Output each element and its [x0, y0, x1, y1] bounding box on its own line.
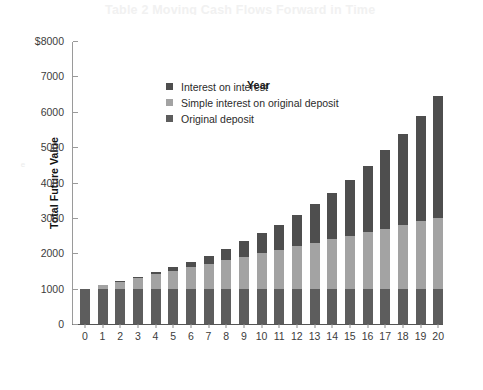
x-tick-label: 8	[223, 330, 229, 342]
legend-label: Original deposit	[181, 113, 254, 125]
bar-segment-original-deposit	[168, 289, 178, 324]
x-tick-mark	[438, 324, 439, 328]
bar-segment-original-deposit	[274, 289, 284, 324]
stacked-bar[interactable]	[257, 233, 267, 324]
x-tick-mark	[296, 324, 297, 328]
legend-item[interactable]: Simple interest on original deposit	[165, 95, 339, 110]
y-tick-mark	[73, 41, 78, 42]
bar-segment-simple-interest	[327, 239, 337, 289]
bar-segment-simple-interest	[380, 229, 390, 289]
x-tick-label: 6	[188, 330, 194, 342]
bar-segment-original-deposit	[380, 289, 390, 324]
y-tick-mark	[73, 253, 78, 254]
bar-segment-original-deposit	[204, 289, 214, 324]
stacked-bar[interactable]	[416, 116, 426, 324]
bar-segment-simple-interest	[398, 225, 408, 289]
bar-segment-interest-on-interest	[327, 193, 337, 240]
stacked-bar[interactable]	[363, 166, 373, 324]
x-tick-mark	[385, 324, 386, 328]
stacked-bar[interactable]	[204, 256, 214, 324]
x-tick-label: 15	[344, 330, 356, 342]
bar-segment-original-deposit	[416, 289, 426, 324]
x-tick-label: 4	[153, 330, 159, 342]
bar-segment-original-deposit	[310, 289, 320, 324]
stacked-bar[interactable]	[186, 262, 196, 324]
x-tick-mark	[120, 324, 121, 328]
x-tick-label: 5	[170, 330, 176, 342]
x-tick-label: 1	[100, 330, 106, 342]
stacked-bar[interactable]	[380, 150, 390, 324]
y-tick-mark	[73, 289, 78, 290]
bar-segment-simple-interest	[133, 278, 143, 289]
x-tick-mark	[84, 324, 85, 328]
x-tick-mark	[261, 324, 262, 328]
bar-segment-original-deposit	[133, 289, 143, 324]
legend-swatch-icon	[165, 82, 174, 91]
bar-segment-simple-interest	[221, 260, 231, 288]
x-tick-label: 10	[256, 330, 268, 342]
stacked-bar[interactable]	[133, 277, 143, 324]
stacked-bar[interactable]	[274, 225, 284, 325]
x-tick-label: 18	[397, 330, 409, 342]
x-tick-label: 12	[291, 330, 303, 342]
bar-segment-interest-on-interest	[204, 256, 214, 264]
x-tick-label: 2	[117, 330, 123, 342]
stacked-bar[interactable]	[115, 281, 125, 324]
stacked-bar[interactable]	[433, 96, 443, 324]
x-tick-mark	[279, 324, 280, 328]
legend-item[interactable]: Interest on interest	[165, 79, 339, 94]
x-tick-label: 20	[432, 330, 444, 342]
x-tick-mark	[349, 324, 350, 328]
x-tick-label: 16	[362, 330, 374, 342]
stacked-bar[interactable]	[151, 272, 161, 324]
bar-segment-simple-interest	[151, 274, 161, 288]
y-tick-label: 3000	[41, 212, 64, 224]
stacked-bar[interactable]	[398, 134, 408, 324]
y-tick-mark	[73, 324, 78, 325]
bar-segment-original-deposit	[80, 289, 90, 324]
page-side-ghost-text: e	[1, 160, 45, 170]
x-tick-mark	[173, 324, 174, 328]
stacked-bar[interactable]	[345, 180, 355, 324]
bar-segment-simple-interest	[168, 271, 178, 289]
bar-segment-interest-on-interest	[363, 166, 373, 232]
legend-swatch-icon	[165, 114, 174, 123]
bar-segment-interest-on-interest	[380, 150, 390, 228]
bar-segment-simple-interest	[416, 221, 426, 288]
legend-item[interactable]: Original deposit	[165, 111, 339, 126]
stacked-bar[interactable]	[80, 289, 90, 324]
y-tick-mark	[73, 183, 78, 184]
stacked-bar[interactable]	[221, 249, 231, 324]
chart-legend: Interest on interestSimple interest on o…	[165, 79, 339, 127]
y-tick-label: 2000	[41, 247, 64, 259]
stacked-bar[interactable]	[168, 267, 178, 324]
y-tick-label: 1000	[41, 283, 64, 295]
y-tick-label: 0	[58, 318, 64, 330]
x-tick-mark	[208, 324, 209, 328]
stacked-bar[interactable]	[310, 204, 320, 324]
bar-segment-original-deposit	[257, 289, 267, 324]
x-tick-label: 13	[309, 330, 321, 342]
bar-segment-interest-on-interest	[221, 249, 231, 260]
bar-segment-interest-on-interest	[310, 204, 320, 243]
bar-segment-original-deposit	[221, 289, 231, 324]
x-tick-mark	[155, 324, 156, 328]
x-tick-mark	[243, 324, 244, 328]
stacked-bar[interactable]	[98, 285, 108, 324]
x-tick-mark	[102, 324, 103, 328]
bar-segment-simple-interest	[433, 218, 443, 289]
x-tick-label: 3	[135, 330, 141, 342]
bar-segment-original-deposit	[433, 289, 443, 324]
bar-segment-interest-on-interest	[433, 96, 443, 218]
bar-segment-simple-interest	[115, 282, 125, 289]
bar-segment-simple-interest	[345, 236, 355, 289]
x-tick-label: 7	[206, 330, 212, 342]
bar-segment-simple-interest	[274, 250, 284, 289]
bar-segment-simple-interest	[292, 246, 302, 288]
stacked-bar[interactable]	[327, 193, 337, 324]
stacked-bar[interactable]	[292, 215, 302, 324]
stacked-bar[interactable]	[239, 241, 249, 324]
x-tick-label: 14	[326, 330, 338, 342]
x-tick-mark	[137, 324, 138, 328]
bar-segment-simple-interest	[310, 243, 320, 289]
